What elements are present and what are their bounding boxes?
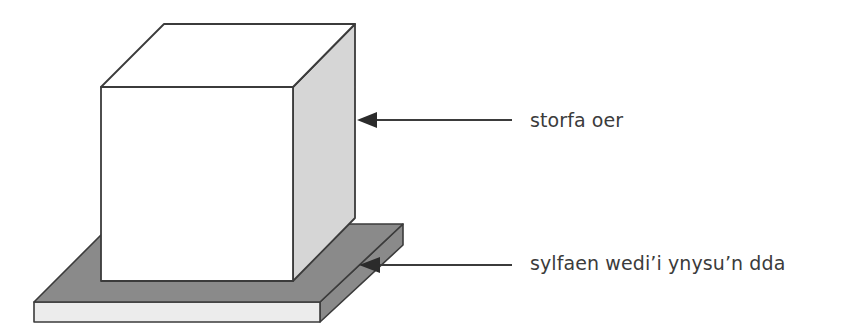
arrow-to-cold-store bbox=[357, 112, 512, 128]
label-cold-store: storfa oer bbox=[530, 111, 623, 130]
arrow-head-cold-store bbox=[357, 112, 377, 128]
slab-front-face bbox=[34, 302, 320, 322]
diagram-illustration bbox=[0, 0, 860, 336]
label-insulated-base: sylfaen wedi’i ynysu’n dda bbox=[530, 254, 785, 273]
cold-store-cube bbox=[101, 24, 355, 281]
cube-front-face bbox=[101, 87, 293, 281]
diagram-canvas: storfa oer sylfaen wedi’i ynysu’n dda bbox=[0, 0, 860, 336]
